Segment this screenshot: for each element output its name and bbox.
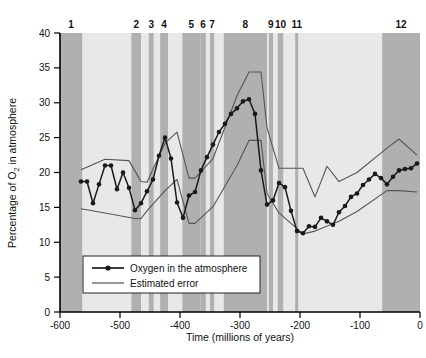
chart-legend: Oxygen in the atmosphere Estimated error [83, 256, 260, 293]
oxygen-data-point [85, 179, 90, 184]
x-tick-label: -100 [350, 320, 370, 331]
oxygen-data-point [187, 193, 192, 198]
band-number-label-2: 2 [133, 19, 139, 30]
oxygen-data-point [91, 201, 96, 206]
oxygen-data-point [223, 121, 228, 126]
y-tick-label: 25 [39, 132, 51, 143]
oxygen-data-point [325, 219, 330, 224]
oxygen-data-point [211, 142, 216, 147]
y-tick-label: 15 [39, 202, 51, 213]
y-tick-label: 40 [39, 28, 51, 39]
oxygen-data-point [103, 163, 108, 168]
oxygen-data-point [199, 168, 204, 173]
oxygen-data-point [145, 189, 150, 194]
oxygen-data-point [379, 176, 384, 181]
oxygen-data-point [391, 174, 396, 179]
band-number-label-9: 9 [268, 19, 274, 30]
y-tick-label: 10 [39, 237, 51, 248]
oxygen-data-point [181, 216, 186, 221]
oxygen-data-point [151, 177, 156, 182]
legend-swatch-oxygen-marker [105, 265, 110, 270]
oxygen-data-point [253, 112, 258, 117]
y-tick-label: 0 [44, 307, 50, 318]
oxygen-data-point [349, 195, 354, 200]
oxygen-data-point [121, 170, 126, 175]
oxygen-atmosphere-chart: 0510152025303540 -600-500-400-300-200-10… [0, 0, 426, 358]
band-number-label-12: 12 [396, 19, 408, 30]
shaded-band-11 [295, 33, 298, 312]
x-tick-label: -500 [110, 320, 130, 331]
oxygen-data-point [307, 224, 312, 229]
band-label-group: 123456789101112 [68, 19, 407, 30]
x-axis-title: Time (millions of years) [186, 331, 294, 343]
oxygen-data-point [373, 172, 378, 177]
y-tick-group: 0510152025303540 [39, 28, 60, 318]
oxygen-data-point [97, 182, 102, 187]
band-number-label-6: 6 [200, 19, 206, 30]
oxygen-data-point [301, 231, 306, 236]
oxygen-data-point [205, 155, 210, 160]
oxygen-data-point [157, 153, 162, 158]
y-axis-title: Percentage of O2 in atmosphere [6, 98, 21, 248]
oxygen-data-point [139, 201, 144, 206]
oxygen-data-point [109, 163, 114, 168]
oxygen-data-point [169, 156, 174, 161]
band-number-label-11: 11 [291, 19, 302, 30]
y-tick-label: 30 [39, 97, 51, 108]
oxygen-data-point [247, 97, 252, 102]
svg-text:Percentage of O2 in atmosphere: Percentage of O2 in atmosphere [6, 98, 21, 248]
chart-canvas: 0510152025303540 -600-500-400-300-200-10… [0, 0, 426, 358]
oxygen-data-point [277, 181, 282, 186]
legend-label-oxygen: Oxygen in the atmosphere [130, 263, 248, 274]
x-tick-label: -300 [230, 320, 250, 331]
oxygen-data-point [265, 202, 270, 207]
oxygen-data-point [319, 216, 324, 221]
oxygen-data-point [289, 209, 294, 214]
x-tick-label: 0 [417, 320, 423, 331]
oxygen-data-point [175, 200, 180, 205]
band-number-label-4: 4 [161, 19, 167, 30]
oxygen-data-point [313, 225, 318, 230]
band-number-label-8: 8 [243, 19, 249, 30]
oxygen-data-point [361, 183, 366, 188]
oxygen-data-point [79, 179, 84, 184]
band-number-label-1: 1 [68, 19, 74, 30]
oxygen-data-point [367, 177, 372, 182]
band-number-label-3: 3 [148, 19, 154, 30]
band-number-label-7: 7 [209, 19, 215, 30]
oxygen-data-point [343, 204, 348, 209]
oxygen-data-point [133, 208, 138, 213]
x-tick-label: -200 [290, 320, 310, 331]
oxygen-data-point [385, 182, 390, 187]
oxygen-data-point [115, 187, 120, 192]
oxygen-data-point [259, 168, 264, 173]
y-axis-title-part2: in atmosphere [6, 98, 18, 168]
y-tick-label: 5 [44, 272, 50, 283]
oxygen-data-point [403, 167, 408, 172]
y-tick-label: 20 [39, 167, 51, 178]
oxygen-data-point [241, 99, 246, 104]
oxygen-data-point [415, 161, 420, 166]
oxygen-data-point [295, 229, 300, 234]
oxygen-data-point [235, 106, 240, 111]
oxygen-data-point [163, 135, 168, 140]
oxygen-data-point [283, 185, 288, 190]
x-tick-label: -400 [170, 320, 190, 331]
y-tick-label: 35 [39, 62, 51, 73]
shaded-band-10 [278, 33, 283, 312]
oxygen-data-point [271, 198, 276, 203]
oxygen-data-point [397, 168, 402, 173]
shaded-band-1 [60, 33, 82, 312]
oxygen-data-point [193, 190, 198, 195]
oxygen-data-point [337, 210, 342, 215]
legend-label-error: Estimated error [130, 278, 199, 289]
y-axis-title-part1: Percentage of O [6, 172, 18, 248]
oxygen-data-point [355, 191, 360, 196]
band-number-label-10: 10 [275, 19, 287, 30]
oxygen-data-point [331, 223, 336, 228]
oxygen-data-point [409, 166, 414, 171]
band-number-label-5: 5 [189, 19, 195, 30]
oxygen-data-point [229, 112, 234, 117]
shaded-band-9 [269, 33, 273, 312]
oxygen-data-point [127, 186, 132, 191]
